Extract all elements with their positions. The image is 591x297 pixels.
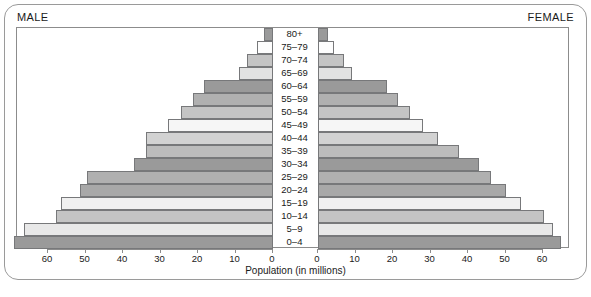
bar-male xyxy=(204,80,273,93)
bar-male xyxy=(193,93,273,106)
age-group-label: 70–74 xyxy=(272,53,317,66)
bar-male xyxy=(257,41,273,54)
bar-female xyxy=(318,210,544,223)
axis-tick-label: 30 xyxy=(424,253,435,264)
age-group-label: 5–9 xyxy=(272,222,317,235)
bar-female xyxy=(318,184,506,197)
axis-title: Population (in millions) xyxy=(0,265,591,276)
axis-tick-label: 10 xyxy=(229,253,240,264)
axis-tick-label: 40 xyxy=(117,253,128,264)
bar-female xyxy=(318,67,352,80)
bar-male xyxy=(24,223,273,236)
bar-female xyxy=(318,54,344,67)
bar-male xyxy=(61,197,273,210)
age-group-label: 25–29 xyxy=(272,170,317,183)
age-group-label: 45–49 xyxy=(272,118,317,131)
bar-female xyxy=(318,171,491,184)
bar-male xyxy=(14,236,273,249)
bar-male xyxy=(80,184,273,197)
age-group-label: 40–44 xyxy=(272,131,317,144)
bar-female xyxy=(318,145,459,158)
axis-tick-label: 50 xyxy=(79,253,90,264)
bar-female xyxy=(318,41,334,54)
axis-tick-label: 0 xyxy=(269,253,274,264)
bar-female xyxy=(318,106,410,119)
age-group-label: 20–24 xyxy=(272,183,317,196)
axis-tick-label: 60 xyxy=(42,253,53,264)
axis-tick-label: 50 xyxy=(499,253,510,264)
age-group-label: 35–39 xyxy=(272,144,317,157)
age-group-label: 80+ xyxy=(272,27,317,40)
male-side-label: MALE xyxy=(17,11,49,23)
age-group-label: 65–69 xyxy=(272,66,317,79)
bar-female xyxy=(318,223,553,236)
bar-male xyxy=(87,171,273,184)
age-group-label: 0–4 xyxy=(272,235,317,248)
bar-female xyxy=(318,132,438,145)
bar-male xyxy=(56,210,274,223)
axis-tick-label: 30 xyxy=(154,253,165,264)
age-group-label: 55–59 xyxy=(272,92,317,105)
axis-tick-label: 60 xyxy=(537,253,548,264)
bar-female xyxy=(318,28,328,41)
bar-male xyxy=(181,106,273,119)
female-side-label: FEMALE xyxy=(528,11,574,23)
bar-male xyxy=(146,145,274,158)
axis-tick-label: 40 xyxy=(462,253,473,264)
bar-male xyxy=(239,67,273,80)
bar-female xyxy=(318,93,398,106)
bar-female xyxy=(318,80,387,93)
bar-female xyxy=(318,119,423,132)
age-group-label: 50–54 xyxy=(272,105,317,118)
bar-female xyxy=(318,197,521,210)
age-group-label: 60–64 xyxy=(272,79,317,92)
bar-male xyxy=(168,119,273,132)
population-pyramid-figure: MALE FEMALE 80+75–7970–7465–6960–6455–59… xyxy=(0,0,591,297)
axis-tick-label: 20 xyxy=(387,253,398,264)
age-group-label: 30–34 xyxy=(272,157,317,170)
bar-female xyxy=(318,158,479,171)
bar-male xyxy=(146,132,274,145)
bar-female xyxy=(318,236,561,249)
axis-tick-label: 0 xyxy=(314,253,319,264)
axis-tick-label: 10 xyxy=(349,253,360,264)
bar-male xyxy=(134,158,273,171)
bar-male xyxy=(247,54,273,67)
age-group-label: 10–14 xyxy=(272,209,317,222)
age-group-label: 15–19 xyxy=(272,196,317,209)
axis-tick-label: 20 xyxy=(192,253,203,264)
age-group-label: 75–79 xyxy=(272,40,317,53)
